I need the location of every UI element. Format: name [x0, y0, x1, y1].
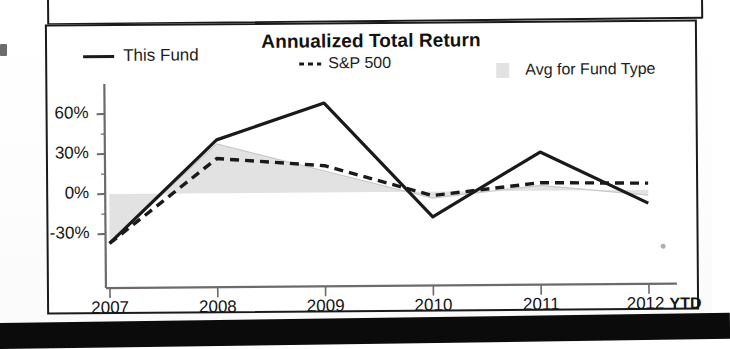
y-tick-label-0: 60% — [16, 103, 88, 124]
chart-panel: Annualized Total Return This Fund S&P 50… — [45, 19, 699, 314]
scan-artifact-speck — [661, 244, 666, 249]
x-tick-label-2009: 2009 — [290, 296, 362, 317]
x-tick-label-2008: 2008 — [182, 297, 254, 318]
chart-svg — [47, 21, 697, 312]
x-tick-label-2007: 2007 — [74, 298, 146, 319]
x-tick-year: 2008 — [199, 297, 237, 316]
x-tick-year: 2009 — [307, 296, 345, 315]
x-tick-label-2010: 2010 — [397, 295, 469, 316]
x-tick-year: 2010 — [414, 295, 452, 314]
x-tick-label-2011: 2011 — [505, 294, 577, 315]
plot-area — [47, 21, 697, 312]
y-tick-label-1: 30% — [17, 143, 89, 164]
x-tick-year: 2011 — [523, 295, 560, 314]
x-tick-year: 2012 — [627, 294, 665, 313]
x-tick-label-2012: 2012YTD — [609, 293, 719, 314]
left-edge-text-fragment — [0, 44, 7, 56]
x-axis-ytd-label: YTD — [669, 294, 701, 311]
x-tick-year: 2007 — [91, 298, 129, 317]
y-tick-label-3: -30% — [17, 223, 89, 244]
y-tick-label-2: 0% — [17, 183, 89, 204]
